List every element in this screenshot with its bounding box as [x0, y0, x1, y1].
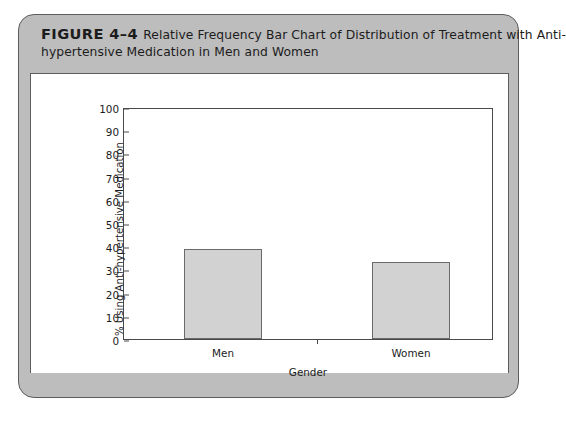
y-tick-label: 50 [59, 219, 119, 231]
y-tick-label: 80 [59, 149, 119, 161]
y-tick-mark [124, 201, 129, 202]
y-tick-label: 60 [59, 196, 119, 208]
y-tick-mark [124, 294, 129, 295]
figure-footer-band [19, 372, 518, 397]
y-tick-mark [124, 248, 129, 249]
bar-men [184, 249, 262, 339]
y-tick-mark [124, 271, 129, 272]
y-tick-label: 100 [59, 103, 119, 115]
plot-frame: % Using Anti-hypertensive Medication 010… [123, 108, 493, 340]
x-tick-label: Men [212, 347, 234, 359]
bar-women [372, 262, 450, 339]
chart-canvas: % Using Anti-hypertensive Medication 010… [30, 73, 509, 373]
y-tick-label: 10 [59, 312, 119, 324]
y-tick-label: 90 [59, 126, 119, 138]
y-tick-mark [124, 132, 129, 133]
caption-text-1: Relative Frequency Bar Chart of Distribu… [143, 28, 566, 42]
figure-caption: FIGURE 4–4Relative Frequency Bar Chart o… [19, 15, 518, 73]
y-tick-label: 20 [59, 289, 119, 301]
y-tick-mark [124, 178, 129, 179]
x-tick-label: Women [391, 347, 430, 359]
caption-line-2: hypertensive Medication in Men and Women [41, 44, 496, 61]
y-tick-mark [124, 109, 129, 110]
figure-number: FIGURE 4–4 [41, 25, 138, 42]
y-tick-mark [124, 341, 129, 342]
x-tick-mark [317, 339, 318, 344]
figure-panel: FIGURE 4–4Relative Frequency Bar Chart o… [18, 14, 519, 398]
y-tick-label: 40 [59, 242, 119, 254]
caption-line-1: FIGURE 4–4Relative Frequency Bar Chart o… [41, 26, 496, 44]
y-tick-label: 70 [59, 173, 119, 185]
y-tick-mark [124, 317, 129, 318]
y-tick-mark [124, 225, 129, 226]
y-tick-label: 30 [59, 265, 119, 277]
y-tick-mark [124, 155, 129, 156]
y-tick-label: 0 [59, 335, 119, 347]
